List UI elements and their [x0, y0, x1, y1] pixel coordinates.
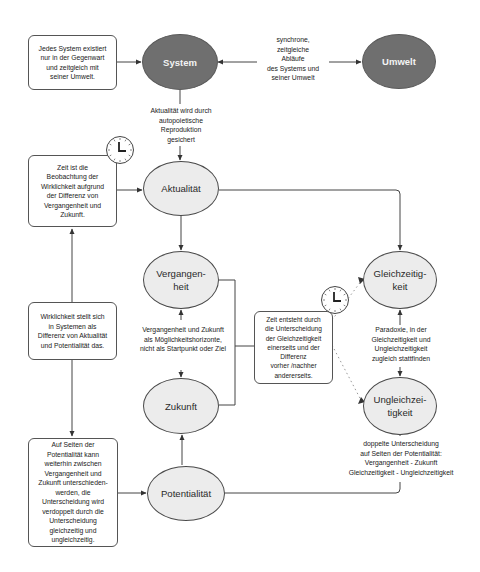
node-zukunft: Zukunft [143, 378, 219, 434]
node-potentialitaet: Potentialität [147, 466, 225, 521]
node-umwelt: Umwelt [362, 34, 436, 89]
aktualitaet-gesichert-label: Aktualität wird durch autopoietische Rep… [140, 106, 222, 144]
zeit-entsteht-note-box: Zeit entsteht durch die Unterscheidung d… [254, 311, 333, 384]
node-gleichzeitigkeit: Gleichzeitig- keit [363, 251, 437, 309]
paradoxie-label: Paradoxie, in der Gleichzeitigkeit und U… [365, 325, 437, 363]
doppelte-unterscheidung-label: doppelte Unterscheidung auf Seiten der P… [340, 439, 462, 477]
clock-icon [105, 135, 135, 165]
wirklichkeit-note-box: Wirklichkeit stellt sich in Systemen als… [28, 302, 117, 360]
synchron-label: synchrone, zeitgleiche Abläufe des Syste… [257, 35, 329, 83]
node-vergangenheit: Vergangen- heit [143, 251, 219, 309]
node-system: System [142, 34, 218, 90]
zeit-note-box: Zeit ist die Beobachtung der Wirklichkei… [28, 155, 117, 227]
node-ungleichzeitigkeit: Ungleichzei- tigkeit [363, 377, 437, 435]
horizonte-label: Vergangenheit und Zukunft als Möglichkei… [135, 325, 231, 354]
node-aktualitaet: Aktualität [143, 161, 219, 216]
potentialitaet-note-box: Auf Seiten der Potentialität kann weiter… [28, 438, 118, 547]
clock-icon [320, 285, 350, 315]
system-note-box: Jedes System existiert nur in der Gegenw… [28, 35, 117, 90]
